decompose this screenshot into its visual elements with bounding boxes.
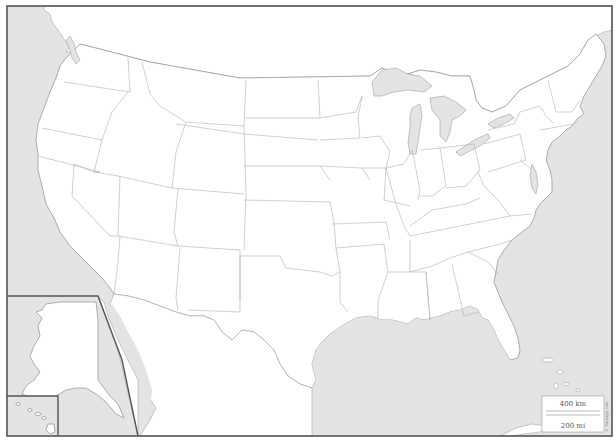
scale-km-label: 400 km (560, 400, 587, 408)
us-map: 400 km 200 mi © Vemaps.com (0, 0, 615, 440)
map-canvas: 400 km 200 mi © Vemaps.com (0, 0, 615, 440)
scale-bar: 400 km 200 mi (542, 396, 604, 432)
credit-text: © Vemaps.com (604, 401, 609, 432)
scale-mi-label: 200 mi (561, 422, 586, 430)
